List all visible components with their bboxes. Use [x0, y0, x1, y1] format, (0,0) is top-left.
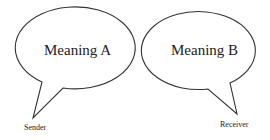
- diagram-canvas: [0, 0, 270, 140]
- sender-label: Sender: [24, 123, 46, 132]
- receiver-label: Receiver: [220, 120, 248, 129]
- speech-bubble-b: [141, 12, 255, 114]
- bubble-b-text: Meaning B: [171, 42, 238, 59]
- bubble-a-text: Meaning A: [44, 42, 111, 59]
- speech-bubble-a: [15, 7, 135, 118]
